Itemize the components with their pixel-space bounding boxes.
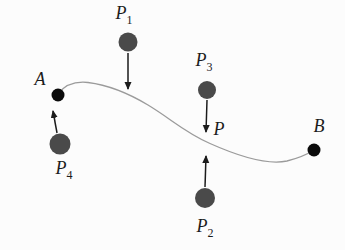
- label-p4: P4: [56, 159, 73, 177]
- curve-diagram-svg: [0, 0, 345, 250]
- label-b: B: [314, 117, 325, 135]
- point-b-dot: [308, 144, 321, 157]
- charge-p2: [195, 188, 215, 208]
- label-p4-base: P: [56, 158, 67, 178]
- path-curve-a-to-b: [58, 82, 314, 162]
- charge-p4: [50, 134, 71, 155]
- label-p1-base: P: [116, 3, 127, 23]
- arrow-p3-to-curve: [206, 100, 207, 132]
- charge-p3: [198, 81, 216, 99]
- label-p4-sub: 4: [67, 168, 73, 182]
- diagram-canvas: P1 P3 P P2 P4 A B: [0, 0, 345, 250]
- label-a-base: A: [35, 69, 46, 89]
- point-a-dot: [52, 89, 65, 102]
- label-p-base: P: [214, 119, 225, 139]
- label-p3-sub: 3: [207, 60, 213, 74]
- label-p2-sub: 2: [208, 226, 214, 240]
- label-p1: P1: [116, 4, 133, 22]
- arrow-p4-to-point-a: [53, 111, 57, 133]
- label-p: P: [214, 120, 225, 138]
- label-p3-base: P: [196, 50, 207, 70]
- arrow-p2-to-curve: [205, 156, 206, 187]
- label-p1-sub: 1: [127, 13, 133, 27]
- label-b-base: B: [314, 116, 325, 136]
- label-a: A: [35, 70, 46, 88]
- label-p3: P3: [196, 51, 213, 69]
- label-p2-base: P: [197, 216, 208, 236]
- charge-p1: [119, 33, 138, 52]
- label-p2: P2: [197, 217, 214, 235]
